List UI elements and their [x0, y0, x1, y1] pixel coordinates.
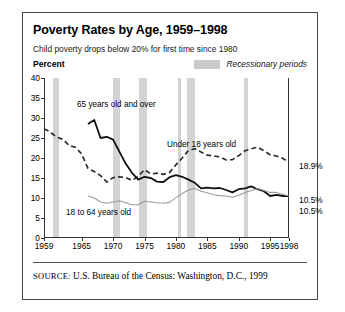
y-axis-tick-label: 30 [31, 113, 40, 123]
x-axis-tick-mark [145, 238, 146, 241]
source-divider [33, 262, 307, 263]
y-axis-tick-label: 35 [31, 93, 40, 103]
legend-label: Recessionary periods [226, 59, 307, 69]
x-axis-tick-label: 1959 [35, 241, 54, 251]
x-axis-tick-label: 1970 [104, 241, 123, 251]
under18-end-value: 18.9% [299, 161, 323, 171]
x-axis-tick-mark [44, 238, 45, 241]
over65-end-value: 10.5% [299, 195, 323, 205]
series-line [88, 188, 289, 204]
y-axis-tick-label: 10 [31, 193, 40, 203]
x-axis-tick-mark [239, 238, 240, 241]
age18to64-end-value: 10.5% [299, 206, 323, 216]
y-axis-tick-label: 15 [31, 173, 40, 183]
y-axis-tick-mark [41, 178, 44, 179]
plot-wrapper: 4035302520151050 19591965197019751980198… [44, 78, 289, 238]
x-axis-tick-label: 1998 [280, 241, 299, 251]
y-axis-tick-mark [41, 78, 44, 79]
age18to64-label: 18 to 64 years old [66, 208, 131, 217]
y-axis-tick-mark [41, 138, 44, 139]
x-axis-tick-label: 1985 [198, 241, 217, 251]
source-text: U.S. Bureau of the Census: Washington, D… [71, 271, 268, 281]
y-axis-tick-label: 25 [31, 133, 40, 143]
y-axis-tick-label: 20 [31, 153, 40, 163]
x-axis-tick-mark [289, 238, 290, 241]
over65-label: 65 years old and over [77, 100, 156, 109]
chart-subtitle: Child poverty drops below 20% for first … [33, 44, 237, 54]
x-axis-tick-label: 1965 [72, 241, 91, 251]
x-axis-tick-label: 1995 [261, 241, 280, 251]
x-axis-tick-mark [207, 238, 208, 241]
x-axis-tick-mark [113, 238, 114, 241]
recession-band-swatch [194, 60, 220, 69]
x-axis-tick-label: 1980 [167, 241, 186, 251]
y-axis-tick-mark [41, 198, 44, 199]
page-title: Poverty Rates by Age, 1959–1998 [33, 23, 227, 37]
figure-container: Poverty Rates by Age, 1959–1998 Child po… [22, 12, 318, 300]
x-axis-tick-mark [270, 238, 271, 241]
y-axis-tick-mark [41, 118, 44, 119]
series-line [88, 120, 289, 196]
source-note: SOURCE: U.S. Bureau of the Census: Washi… [33, 271, 268, 281]
y-axis-tick-mark [41, 158, 44, 159]
y-axis-tick-label: 5 [35, 213, 40, 223]
series-line [44, 129, 289, 182]
y-axis-tick-label: 40 [31, 73, 40, 83]
y-axis-tick-mark [41, 98, 44, 99]
x-axis-tick-label: 1975 [135, 241, 154, 251]
x-axis-tick-label: 1990 [229, 241, 248, 251]
y-axis-title: Percent [33, 59, 65, 69]
source-keyword: SOURCE: [33, 271, 71, 281]
chart-legend: Recessionary periods [194, 59, 307, 69]
x-axis-tick-mark [82, 238, 83, 241]
x-axis-tick-mark [176, 238, 177, 241]
under18-label: Under 18 years old [167, 140, 236, 149]
y-axis-tick-mark [41, 218, 44, 219]
